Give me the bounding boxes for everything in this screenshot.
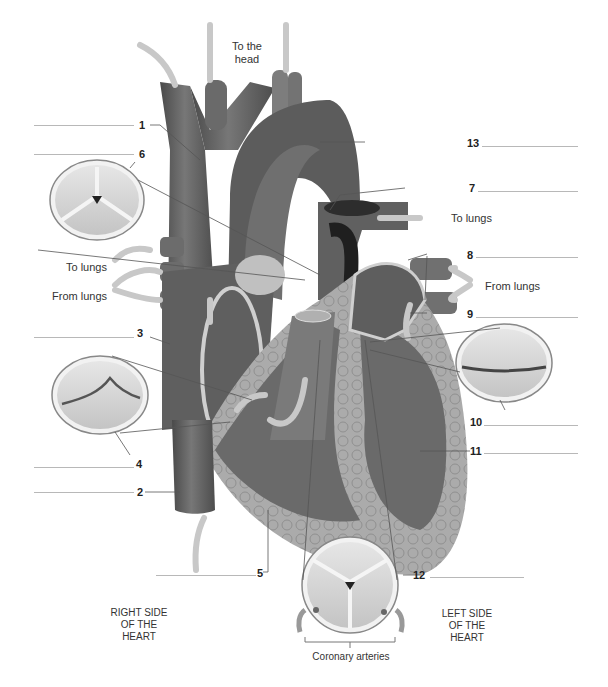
callout-10: 10: [470, 416, 482, 428]
label-to-lungs-right: To lungs: [66, 261, 107, 274]
answer-line-10[interactable]: [484, 425, 578, 426]
label-from-lungs-left: From lungs: [485, 280, 540, 293]
answer-line-4[interactable]: [34, 467, 134, 468]
answer-line-11[interactable]: [484, 453, 578, 454]
label-left-side-of-heart: LEFT SIDE OF THE HEART: [438, 608, 496, 644]
callout-9: 9: [467, 308, 473, 320]
callout-3: 3: [137, 327, 143, 339]
answer-line-8[interactable]: [476, 257, 578, 258]
callout-13: 13: [467, 137, 479, 149]
heart-illustration: [0, 0, 608, 687]
inferior-vena-cava: [172, 420, 215, 514]
callout-4: 4: [136, 458, 142, 470]
valve-inset-4: [52, 356, 148, 434]
valve-inset-10: [456, 324, 552, 402]
callout-1: 1: [139, 119, 145, 131]
answer-line-3[interactable]: [34, 337, 134, 338]
valve-inset-12: [299, 537, 402, 648]
callout-7: 7: [469, 182, 475, 194]
answer-line-6[interactable]: [34, 154, 134, 155]
answer-line-13[interactable]: [482, 146, 578, 147]
callout-11: 11: [470, 445, 482, 457]
answer-line-1[interactable]: [34, 125, 134, 126]
callout-12: 12: [413, 569, 425, 581]
callout-8: 8: [467, 249, 473, 261]
answer-line-2[interactable]: [34, 492, 134, 493]
callout-5: 5: [257, 567, 263, 579]
callout-2: 2: [137, 486, 143, 498]
label-coronary-arteries: Coronary arteries: [296, 650, 406, 663]
answer-line-7[interactable]: [478, 191, 578, 192]
label-from-lungs-right: From lungs: [52, 290, 107, 303]
label-to-lungs-left: To lungs: [451, 212, 492, 225]
label-to-the-head: To the head: [230, 40, 264, 66]
label-right-side-of-heart: RIGHT SIDE OF THE HEART: [105, 607, 173, 643]
answer-line-12[interactable]: [430, 577, 524, 578]
answer-line-9[interactable]: [476, 317, 578, 318]
answer-line-5[interactable]: [156, 575, 256, 576]
valve-inset-6: [50, 160, 144, 240]
callout-6: 6: [139, 148, 145, 160]
